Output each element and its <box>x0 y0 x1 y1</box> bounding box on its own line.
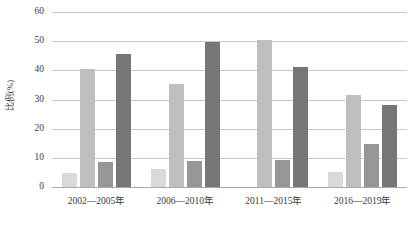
x-axis-tick-label: 2011—2015年 <box>230 190 319 212</box>
bar[interactable] <box>346 95 361 187</box>
bar[interactable] <box>98 162 113 187</box>
bar[interactable] <box>364 144 379 187</box>
bar[interactable] <box>62 173 77 187</box>
bar[interactable] <box>382 105 397 187</box>
bar-group <box>141 12 230 187</box>
bar[interactable] <box>169 84 184 187</box>
y-axis-tick-label: 20 <box>35 124 45 134</box>
y-axis-title: 比例(%) <box>2 0 18 190</box>
y-axis-title-text: 比例(%) <box>4 79 17 111</box>
x-axis-tick-labels: 2002—2005年2006—2010年2011—2015年2016—2019年 <box>52 190 407 212</box>
y-axis-tick-label: 40 <box>35 66 45 76</box>
gridline <box>52 187 407 188</box>
x-axis-tick-label: 2006—2010年 <box>141 190 230 212</box>
bar[interactable] <box>187 161 202 187</box>
y-axis-tick-label: 60 <box>35 7 45 17</box>
bar[interactable] <box>151 169 166 187</box>
bar[interactable] <box>328 172 343 187</box>
y-axis-tick-label: 50 <box>35 36 45 46</box>
y-axis-tick-labels: 6050403020100 <box>18 12 48 187</box>
bar-group <box>52 12 141 187</box>
bar[interactable] <box>205 42 220 187</box>
bar[interactable] <box>293 67 308 187</box>
y-axis-tick-label: 0 <box>39 182 44 192</box>
x-axis-tick-label: 2016—2019年 <box>318 190 407 212</box>
y-axis-tick-label: 30 <box>35 95 45 105</box>
bar-group <box>318 12 407 187</box>
bar-group <box>230 12 319 187</box>
plot-area <box>52 12 407 187</box>
bar-chart: 比例(%) 6050403020100 2002—2005年2006—2010年… <box>0 0 417 229</box>
bar[interactable] <box>80 69 95 187</box>
bar[interactable] <box>116 54 131 187</box>
x-axis-tick-label: 2002—2005年 <box>52 190 141 212</box>
bar[interactable] <box>275 160 290 187</box>
y-axis-tick-label: 10 <box>35 153 45 163</box>
bar[interactable] <box>257 40 272 187</box>
bar-groups <box>52 12 407 187</box>
